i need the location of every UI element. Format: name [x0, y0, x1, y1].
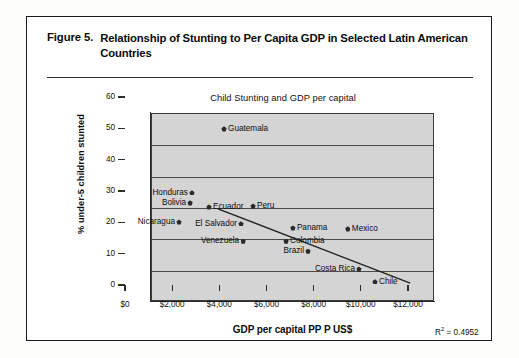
gridline	[152, 145, 433, 146]
y-axis-tick	[118, 253, 125, 254]
y-axis-tick-label: 30	[97, 186, 115, 196]
gridline	[152, 177, 433, 178]
data-point-label: Panama	[297, 224, 328, 232]
data-point-label: Colombia	[290, 237, 325, 245]
y-axis-tick	[118, 222, 125, 223]
r-squared-annotation: R2 = 0.4952	[435, 326, 479, 337]
data-point-label: Guatemala	[228, 125, 268, 133]
data-point-label: El Salvador	[195, 220, 237, 228]
y-axis-tick	[118, 159, 125, 160]
gridline	[152, 208, 433, 209]
x-axis-tick	[172, 285, 173, 291]
data-point-label: Honduras	[152, 189, 188, 197]
gridline	[152, 271, 433, 272]
x-axis-tick-label: $12,000	[380, 293, 436, 311]
y-axis-line	[150, 112, 151, 302]
y-axis-tick	[118, 96, 125, 97]
y-axis-title: % under-5 children stunted	[76, 99, 86, 249]
y-axis-tick-label: 60	[97, 92, 115, 102]
r2-value: = 0.4952	[444, 328, 478, 337]
data-point-label: Mexico	[352, 225, 378, 233]
x-axis-tick	[407, 285, 408, 291]
chart-title: Child Stunting and GDP per capital	[123, 93, 443, 103]
plot-area	[151, 113, 434, 301]
y-axis-tick	[118, 190, 125, 191]
y-axis-tick	[118, 128, 125, 129]
x-axis-tick	[266, 285, 267, 291]
x-axis-title: GDP per capital PP P US$	[151, 324, 434, 335]
figure-frame: Figure 5. Relationship of Stunting to Pe…	[26, 16, 492, 341]
data-point-label: Bolivia	[162, 199, 186, 207]
figure-number-label: Figure 5.	[47, 31, 93, 43]
y-axis-tick-label: 0	[97, 280, 115, 290]
data-point-label: Costa Rica	[315, 265, 355, 273]
y-axis-tick-label: 20	[97, 217, 115, 227]
data-point-label: Venezuela	[201, 237, 239, 245]
figure-caption: Figure 5. Relationship of Stunting to Pe…	[47, 31, 473, 61]
data-point-label: Nicaragua	[138, 218, 175, 226]
x-axis-tick	[124, 285, 125, 291]
data-point-label: Peru	[257, 202, 274, 210]
data-point-label: Ecuador	[213, 203, 244, 211]
y-axis-tick-label: 10	[97, 249, 115, 259]
caption-divider	[47, 77, 473, 78]
x-axis-tick	[360, 285, 361, 291]
page-background: Figure 5. Relationship of Stunting to Pe…	[0, 0, 519, 358]
data-point-label: Brazil	[284, 247, 304, 255]
x-axis-tick	[313, 285, 314, 291]
figure-caption-text: Relationship of Stunting to Per Capita G…	[100, 31, 473, 61]
y-axis-tick-label: 50	[97, 123, 115, 133]
data-point-label: Chile	[379, 278, 398, 286]
y-axis-tick-label: 40	[97, 155, 115, 165]
x-axis-tick	[219, 285, 220, 291]
